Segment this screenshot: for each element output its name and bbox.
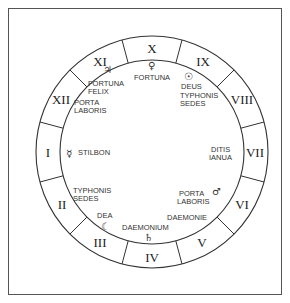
house-numeral-5: V: [197, 235, 207, 250]
label-house-5: DAEMONIE: [167, 213, 207, 222]
moon-icon: ☾: [101, 221, 110, 232]
label-house-8-line2: SEDES: [180, 99, 205, 108]
house-numeral-3: III: [94, 235, 107, 250]
jupiter-icon: ♃: [103, 64, 112, 75]
label-house-9: DEUS: [181, 82, 202, 91]
house-numeral-7: VII: [246, 145, 264, 160]
mars-icon: ♂: [212, 186, 221, 197]
houses-wheel: I II III IV V VI VII VIII IX X XI XII ☿ …: [0, 0, 290, 303]
label-house-7-line2: IANUA: [209, 153, 232, 162]
house-numeral-8: VIII: [231, 92, 253, 107]
label-house-6-line2: LABORIS: [177, 197, 210, 206]
label-house-10: FORTUNA: [134, 73, 170, 82]
saturn-icon: ♄: [144, 232, 153, 243]
label-house-2-line2: SEDES: [73, 194, 98, 203]
mercury-icon: ☿: [66, 148, 72, 159]
house-numeral-10: X: [147, 41, 157, 56]
house-numeral-12: XII: [52, 92, 70, 107]
house-numeral-4: IV: [145, 250, 159, 265]
label-house-11-line2: FELIX: [88, 87, 109, 96]
label-house-4: DAEMONIUM: [122, 223, 169, 232]
label-house-1: STILBON: [78, 148, 110, 157]
house-numeral-9: IX: [196, 54, 210, 69]
house-numeral-1: I: [46, 145, 50, 160]
label-house-12-line2: LABORIS: [74, 106, 107, 115]
label-house-3: DEA: [97, 211, 112, 220]
venus-icon: ♀: [148, 60, 155, 71]
sun-icon: ☉: [184, 71, 193, 82]
house-labels: ☿ STILBON TYPHONIS SEDES DEA ☾ DAEMONIUM…: [66, 60, 232, 243]
house-numeral-2: II: [58, 197, 67, 212]
house-numeral-6: VI: [235, 197, 249, 212]
